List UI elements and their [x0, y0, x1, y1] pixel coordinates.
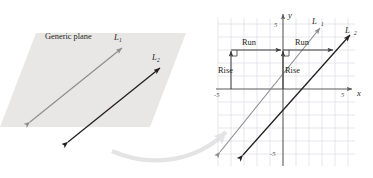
L2-right-angle-marker [283, 50, 289, 56]
generic-plane-label: Generic plane [45, 32, 92, 41]
L2-run-label: Run [295, 38, 310, 47]
curved-arrow [112, 132, 226, 160]
y-axis-label: y [287, 10, 292, 20]
graph-line-L2-label: L 2 [344, 19, 357, 36]
y-tick-minus5: -5 [270, 150, 276, 157]
figure-parallel-lines: Generic plane L1 L2 [0, 0, 373, 178]
coordinate-plane-group: x y -5 5 5 -5 Rise Run L 1 Rise Run L 2 [214, 10, 361, 166]
x-tick-minus5: -5 [214, 91, 220, 98]
curved-arrow-group [112, 132, 226, 160]
L1-rise-label: Rise [218, 66, 233, 75]
L2-rise-label: Rise [285, 66, 300, 75]
generic-plane-group: Generic plane L1 L2 [0, 32, 186, 142]
generic-plane-parallelogram [0, 33, 186, 127]
L1-run-label: Run [242, 38, 257, 47]
figure-svg: Generic plane L1 L2 [0, 0, 373, 178]
x-axis-label: x [356, 88, 361, 98]
grid-lines [218, 18, 355, 166]
y-tick-5: 5 [274, 21, 278, 28]
L1-right-angle-marker [231, 50, 237, 56]
x-tick-5: 5 [341, 91, 345, 98]
graph-line-L2 [243, 35, 350, 155]
